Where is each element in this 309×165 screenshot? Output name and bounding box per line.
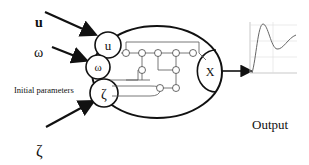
output-plot bbox=[250, 22, 297, 73]
svg-text:X: X bbox=[206, 65, 215, 79]
arrow-zeta-icon bbox=[46, 102, 92, 127]
svg-text:u: u bbox=[105, 38, 112, 53]
arrow-u-icon bbox=[45, 12, 94, 34]
model-diagram: u ω ζ X bbox=[0, 0, 309, 165]
svg-text:ζ: ζ bbox=[101, 87, 107, 102]
arrow-omega-icon bbox=[52, 47, 85, 60]
svg-text:ω: ω bbox=[94, 61, 101, 73]
